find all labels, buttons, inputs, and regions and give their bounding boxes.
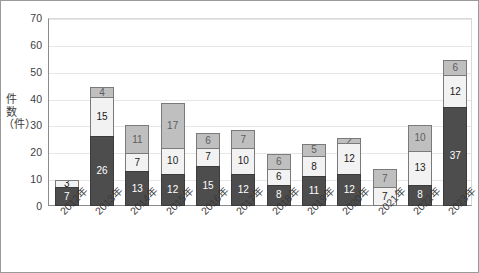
bar-segment[interactable]: 6 [443, 60, 467, 76]
bar-segment[interactable]: 17 [161, 103, 185, 149]
bar-segment[interactable]: 7 [231, 130, 255, 149]
bar-value-label: 12 [450, 86, 461, 96]
bar-value-label: 37 [450, 151, 461, 161]
y-axis-tick-label: 20 [16, 147, 42, 157]
bar-segment[interactable]: 6 [196, 133, 220, 149]
chart-container: 件数（件） 010203040506070 037415261171317101… [0, 0, 479, 273]
bar-value-label: 12 [344, 153, 355, 163]
bar-value-label: 17 [167, 121, 178, 131]
y-axis-tick-label: 60 [16, 40, 42, 50]
bar-segment[interactable]: 12 [443, 75, 467, 107]
bar-value-label: 7 [205, 152, 211, 162]
bar-value-label: 10 [414, 133, 425, 143]
bar-value-label: 6 [276, 157, 282, 167]
bar-segment[interactable]: 15 [90, 97, 114, 137]
x-axis-tick-labels: 2012年2013年2014年2015年2016年2017年2018年2019年… [48, 207, 472, 267]
bar-value-label: 7 [241, 134, 247, 144]
bar-value-label: 4 [99, 87, 105, 97]
y-axis-tick-label: 30 [16, 120, 42, 130]
bar-value-label: 6 [453, 63, 459, 73]
y-axis-tick-label: 0 [16, 201, 42, 211]
bar-value-label: 11 [132, 134, 142, 144]
bar-segment[interactable]: 7 [196, 148, 220, 167]
bar-segment[interactable]: 10 [408, 125, 432, 152]
y-axis-tick-label: 50 [16, 67, 42, 77]
bar-segment[interactable]: 5 [302, 144, 326, 157]
y-axis-tick-label: 40 [16, 94, 42, 104]
bar-value-label: 15 [96, 112, 107, 122]
bar-segment[interactable]: 11 [125, 125, 149, 155]
bar-value-label: 6 [205, 135, 211, 145]
y-axis-tick-label: 70 [16, 13, 42, 23]
y-axis-tick-label: 10 [16, 174, 42, 184]
bar-value-label: 5 [311, 145, 317, 155]
